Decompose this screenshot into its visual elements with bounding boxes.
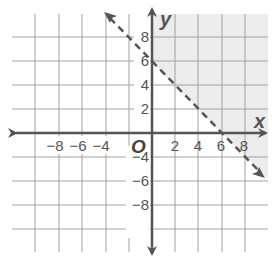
svg-text:6: 6 [141, 52, 149, 69]
y-axis-label: y [159, 8, 172, 30]
svg-text:8: 8 [240, 137, 248, 154]
svg-text:2: 2 [171, 137, 179, 154]
svg-text:−8: −8 [46, 137, 63, 154]
svg-text:4: 4 [141, 76, 149, 93]
x-axis-label: x [253, 110, 266, 132]
svg-text:8: 8 [141, 28, 149, 45]
svg-text:−6: −6 [132, 172, 149, 189]
svg-text:4: 4 [194, 137, 202, 154]
svg-text:−6: −6 [69, 137, 86, 154]
svg-text:−4: −4 [92, 137, 109, 154]
svg-text:6: 6 [217, 137, 225, 154]
svg-text:2: 2 [141, 100, 149, 117]
svg-text:−4: −4 [132, 148, 149, 165]
coordinate-graph: y x O −8 −6 −4 2 4 6 8 8 6 4 2 −4 −6 −8 [0, 0, 272, 262]
svg-text:−8: −8 [132, 196, 149, 213]
